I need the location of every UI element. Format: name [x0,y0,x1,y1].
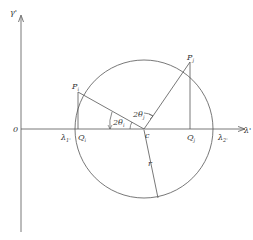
y-axis-label: γ' [10,8,17,17]
point-label-c: c [145,131,150,140]
cp-j-line [144,62,190,129]
radius-label: r [148,159,153,168]
point-label-p-i: Pi [71,82,79,92]
point-label-lambda2: λ2' [217,133,228,143]
angle-label-theta-i: 2θi [112,118,125,128]
point-label-q-i: Qi [78,133,87,143]
angle-label-theta-j: 2θj [132,110,145,121]
origin-label: 0 [13,125,18,134]
point-label-q-j: Qj [187,133,196,144]
x-axis-label: λ' [243,126,251,135]
angle-arc-theta-i [110,112,112,129]
angle-arc-theta-i-inner [130,122,132,129]
mohr-circle-diagram: γ' λ' 0 r 2θi 2θj Pi Pj Qi Qj c λ1' λ2' [0,0,253,240]
angle-arrow-icon-j [149,114,153,119]
point-label-lambda1: λ1' [60,133,71,143]
